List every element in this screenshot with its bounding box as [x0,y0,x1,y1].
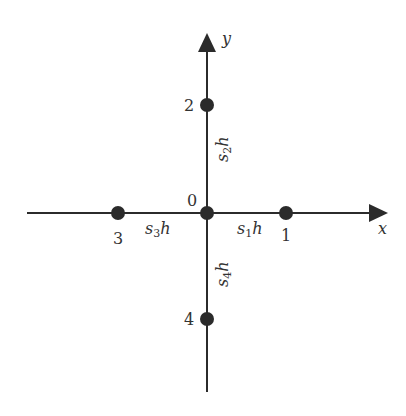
node-4 [200,312,214,326]
spacing-s2h-group: s2h [213,136,234,162]
spacing-s2h: s2h [213,136,234,162]
spacing-s3h: s3h [145,219,171,240]
y-axis-arrowhead [198,33,216,52]
node-3 [111,206,125,220]
node-2-label: 2 [184,96,194,115]
stencil-diagram: x y 0 1 2 3 4 s1h s3h s2h s4h [0,0,406,416]
node-2 [200,98,214,112]
node-1 [279,206,293,220]
x-axis-label: x [378,219,387,238]
node-1-label: 1 [281,226,291,245]
node-0 [200,206,214,220]
spacing-s4h: s4h [213,261,234,287]
spacing-s1h: s1h [237,219,263,240]
node-0-label: 0 [187,191,197,210]
y-axis-label: y [221,29,232,48]
spacing-s4h-group: s4h [213,261,234,287]
node-3-label: 3 [113,229,123,248]
node-4-label: 4 [184,310,194,329]
